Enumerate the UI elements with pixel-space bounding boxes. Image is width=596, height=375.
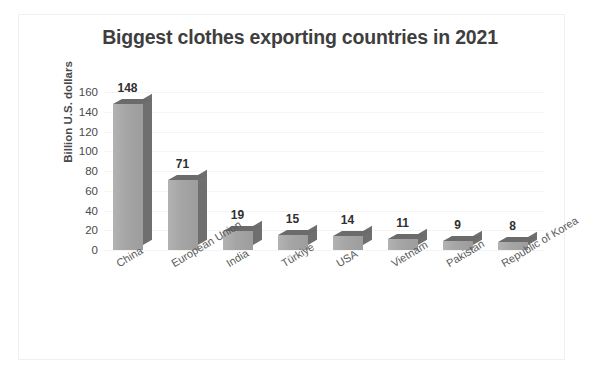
- bar-side-face: [143, 94, 152, 245]
- bar-value-label: 8: [484, 219, 542, 233]
- gridline: [104, 171, 544, 172]
- bar-front-face: [113, 104, 143, 250]
- gridline: [104, 151, 544, 152]
- bar-side-face: [198, 170, 207, 245]
- bar[interactable]: 14: [333, 230, 363, 250]
- y-axis-tick-label: 100: [62, 145, 98, 157]
- gridline: [104, 132, 544, 133]
- bar-value-label: 148: [99, 81, 157, 95]
- y-axis-tick-label: 160: [62, 86, 98, 98]
- chart-title: Biggest clothes exporting countries in 2…: [40, 26, 560, 49]
- gridline: [104, 112, 544, 113]
- bar-value-label: 15: [264, 212, 322, 226]
- bar-value-label: 9: [429, 218, 487, 232]
- bar[interactable]: 71: [168, 174, 198, 250]
- y-axis-tick-label: 80: [62, 165, 98, 177]
- y-axis-tick-labels: 160140120100806040200: [62, 86, 98, 256]
- gridline: [104, 92, 544, 93]
- y-axis-tick-label: 40: [62, 205, 98, 217]
- y-axis-tick-label: 0: [62, 244, 98, 256]
- y-axis-tick-label: 60: [62, 185, 98, 197]
- bar[interactable]: 148: [113, 98, 143, 250]
- bar-value-label: 71: [154, 157, 212, 171]
- bar-value-label: 14: [319, 213, 377, 227]
- y-axis-tick-label: 140: [62, 106, 98, 118]
- y-axis-tick-label: 20: [62, 224, 98, 236]
- bar-value-label: 11: [374, 216, 432, 230]
- plot-area: 148711915141198: [104, 86, 544, 254]
- bar-front-face: [333, 236, 363, 250]
- y-axis-tick-label: 120: [62, 126, 98, 138]
- bar-side-face: [253, 221, 262, 245]
- bar-chart: Biggest clothes exporting countries in 2…: [0, 0, 596, 375]
- bar-front-face: [168, 180, 198, 250]
